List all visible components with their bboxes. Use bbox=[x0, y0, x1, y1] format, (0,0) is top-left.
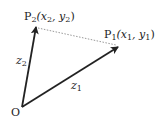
origin-label: O bbox=[11, 106, 20, 119]
vector-z2-label: z2 bbox=[15, 54, 27, 68]
point-p1-label: P1(x1, y1) bbox=[104, 28, 155, 42]
vector-diagram: P2(x2, y2) P1(x1, y1) z2 z1 O bbox=[0, 0, 157, 123]
point-p2-label: P2(x2, y2) bbox=[24, 10, 75, 24]
vector-z1-label: z1 bbox=[70, 79, 82, 93]
vector-z1 bbox=[22, 47, 118, 107]
